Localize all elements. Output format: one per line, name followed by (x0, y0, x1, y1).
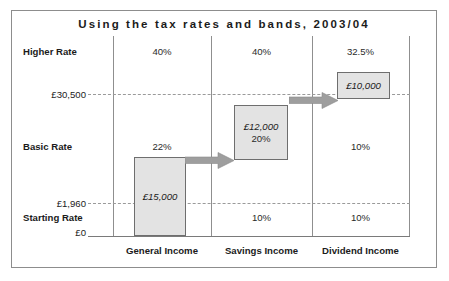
dividend-income-amount-label: £10,000 (346, 80, 381, 91)
flow-arrow-savings-to-dividend (289, 92, 339, 109)
savings-income-amount-box: £12,000 20% (234, 105, 288, 160)
rate-higher-dividend: 32.5% (312, 46, 409, 57)
axis-value-0: £0 (20, 227, 86, 238)
rate-starting-dividend: 10% (312, 212, 409, 223)
column-divider-right (409, 36, 410, 236)
column-divider-left (113, 36, 114, 236)
column-divider-1 (211, 36, 212, 236)
column-label-dividend-income: Dividend Income (312, 245, 409, 256)
axis-value-30500: £30,500 (20, 89, 86, 100)
column-divider-2 (312, 36, 313, 236)
general-income-amount-label: £15,000 (143, 191, 178, 202)
rate-basic-dividend: 10% (312, 141, 409, 152)
rate-higher-general: 40% (113, 46, 211, 57)
band-label-higher-rate: Higher Rate (23, 46, 77, 57)
column-label-savings-income: Savings Income (211, 245, 312, 256)
band-label-starting-rate: Starting Rate (23, 212, 83, 223)
tax-bands-figure: Using the tax rates and bands, 2003/04 H… (0, 0, 449, 281)
rate-basic-general: 22% (113, 141, 211, 152)
column-label-general-income: General Income (113, 245, 211, 256)
dividend-income-amount-box: £10,000 (337, 72, 390, 99)
band-label-basic-rate: Basic Rate (23, 141, 72, 152)
zero-baseline (88, 236, 410, 237)
rate-starting-savings: 10% (211, 212, 312, 223)
savings-income-amount-label: £12,000 (244, 121, 279, 132)
rate-higher-savings: 40% (211, 46, 312, 57)
flow-arrow-general-to-savings (185, 152, 235, 169)
general-income-amount-box: £15,000 (134, 157, 186, 236)
axis-value-1960: £1,960 (20, 198, 86, 209)
figure-title: Using the tax rates and bands, 2003/04 (11, 14, 437, 34)
savings-income-rate-label: 20% (251, 133, 270, 144)
